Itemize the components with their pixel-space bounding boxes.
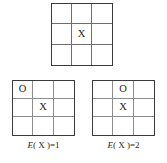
cell-mark-o: O [19,84,27,95]
board-cell[interactable] [134,117,154,135]
board-cell[interactable] [54,117,74,135]
board-cell[interactable] [92,4,112,24]
clipped-page-caption [3,156,163,163]
board-cell[interactable] [92,24,112,44]
board-option-1: O X [12,80,75,136]
board-cell[interactable] [93,117,113,135]
cell-mark-x: X [78,28,86,39]
board-cell-center[interactable]: X [33,99,53,117]
board-cell[interactable] [54,99,74,117]
board-cell-o[interactable]: O [113,81,133,99]
board-cell-center[interactable]: X [72,24,92,44]
board-cell[interactable] [134,81,154,99]
board-cell[interactable] [113,117,133,135]
board-cell[interactable] [134,99,154,117]
caption-value: 2 [135,140,140,150]
board-cell[interactable] [33,81,53,99]
board-cell[interactable] [92,45,112,65]
board-cell[interactable] [33,117,53,135]
cell-mark-x: X [39,102,47,113]
board-cell[interactable] [72,4,92,24]
cell-mark-o: O [119,84,127,95]
board-cell-o[interactable]: O [13,81,33,99]
board-cell[interactable] [52,24,72,44]
board-cell[interactable] [13,117,33,135]
board-cell-center[interactable]: X [113,99,133,117]
caption-value: 1 [55,140,60,150]
board-cell[interactable] [54,81,74,99]
board-cell[interactable] [93,81,113,99]
caption-close-equals: )= [125,140,135,150]
initial-board: X [51,3,113,66]
board-option-2-caption: E( X )=2 [92,141,155,150]
board-cell[interactable] [52,4,72,24]
board-cell[interactable] [13,99,33,117]
board-option-2: O X [92,80,155,136]
board-cell[interactable] [93,99,113,117]
board-option-1-caption: E( X )=1 [12,141,75,150]
board-cell[interactable] [52,45,72,65]
board-cell[interactable] [72,45,92,65]
caption-close-equals: )= [45,140,55,150]
cell-mark-x: X [119,102,127,113]
